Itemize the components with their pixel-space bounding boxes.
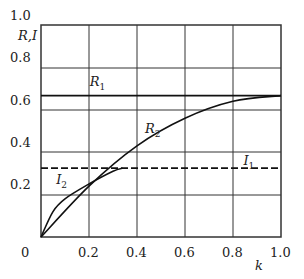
x-tick: 0.8 xyxy=(222,245,243,260)
y-tick: 0.4 xyxy=(10,135,31,150)
x-tick: 0 xyxy=(21,245,29,260)
x-tick: 0.4 xyxy=(126,245,147,260)
y-axis-label: R,I xyxy=(18,28,37,43)
x-axis-label: k xyxy=(255,258,263,273)
y-tick: 1.0 xyxy=(10,8,31,23)
series-I2 xyxy=(41,168,123,237)
y-tick: 0.8 xyxy=(10,50,31,65)
y-tick: 0.6 xyxy=(10,93,31,108)
plot-area xyxy=(0,0,304,279)
chart: 1.0 R,I 0.8 0.6 0.4 0.2 0 0.2 0.4 0.6 0.… xyxy=(0,0,304,279)
series-label: I2 xyxy=(56,172,67,190)
x-tick: 0.2 xyxy=(78,245,99,260)
series-label: I1 xyxy=(243,153,254,171)
series-label: R2 xyxy=(145,121,161,139)
x-tick: 0.6 xyxy=(174,245,195,260)
y-tick: 0.2 xyxy=(10,177,31,192)
x-tick: 1.0 xyxy=(270,245,291,260)
series-label: R1 xyxy=(90,74,106,92)
